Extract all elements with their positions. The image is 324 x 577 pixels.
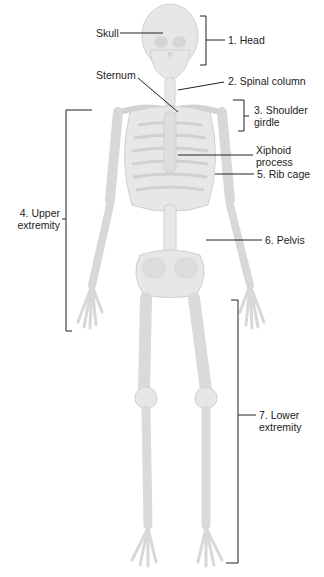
femur-right	[194, 298, 206, 390]
label-spinal-column: 2. Spinal column	[228, 75, 306, 87]
label-lower-extremity: 7. Lower extremity	[259, 409, 302, 433]
humerus-left	[110, 112, 118, 200]
foot-right	[198, 528, 222, 566]
hand-left	[78, 285, 102, 328]
tibia-left	[146, 410, 148, 525]
hand-right	[240, 285, 264, 328]
label-pelvis: 6. Pelvis	[265, 234, 305, 246]
humerus-right	[222, 112, 230, 200]
label-shoulder-girdle-line1: 3. Shoulder	[254, 104, 308, 116]
label-shoulder-girdle-line2: girdle	[254, 116, 308, 128]
skeleton-figure	[78, 4, 264, 566]
label-upper-extremity-line2: extremity	[12, 219, 60, 231]
label-head: 1. Head	[228, 34, 265, 46]
spinal-leader	[178, 82, 224, 90]
label-lower-extremity-line1: 7. Lower	[259, 409, 302, 421]
foot-left	[132, 528, 156, 566]
shoulder-bracket	[233, 100, 249, 131]
label-xiphoid-line2: process	[256, 156, 293, 168]
head-bracket	[200, 16, 225, 65]
label-shoulder-girdle: 3. Shoulder girdle	[254, 104, 308, 128]
label-xiphoid-line1: Xiphoid	[256, 144, 293, 156]
label-rib-cage: 5. Rib cage	[257, 168, 310, 180]
forearm-right	[230, 205, 250, 285]
lower-extremity-bracket	[226, 300, 256, 563]
label-lower-extremity-line2: extremity	[259, 421, 302, 433]
sternum-shape	[164, 112, 176, 172]
label-sternum: Sternum	[96, 69, 136, 81]
forearm-left	[92, 205, 110, 285]
label-upper-extremity-line1: 4. Upper	[12, 207, 60, 219]
femur-left	[144, 298, 146, 390]
label-skull: Skull	[96, 27, 119, 39]
label-xiphoid-process: Xiphoid process	[256, 144, 293, 168]
label-upper-extremity: 4. Upper extremity	[12, 207, 60, 231]
